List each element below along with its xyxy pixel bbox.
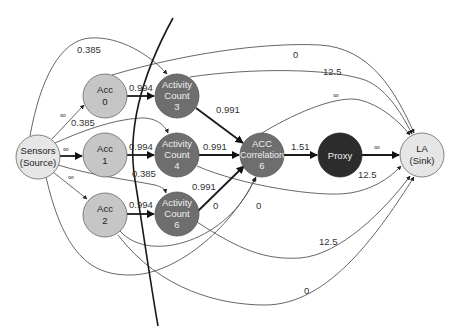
node-proxy: Proxy	[318, 133, 362, 177]
node-acc1-line2: 1	[102, 155, 107, 166]
label-src-acc2: ∞	[68, 173, 74, 182]
label-acc2-ac6: 0.994	[129, 199, 153, 210]
node-proxy-line1: Proxy	[328, 150, 353, 161]
node-acc2: Acc 2	[83, 193, 127, 237]
label-ac6-corr: 0.991	[192, 181, 216, 192]
label-acc1-ac4: 0.994	[129, 141, 153, 152]
node-sink-line2: (Sink)	[410, 155, 435, 166]
node-activity-count-6: Activity Count 6	[155, 192, 199, 236]
node-corr-line2: Correlation	[240, 150, 284, 160]
node-ac4-line2: Count	[164, 149, 190, 160]
node-ac6-line1: Activity	[162, 197, 192, 208]
label-src-ac6: 0.385	[132, 168, 156, 179]
node-acc0: Acc 0	[83, 74, 127, 118]
node-ac3-line1: Activity	[162, 79, 192, 90]
node-acc2-line2: 2	[102, 215, 107, 226]
label-ac3-sink: 12.5	[323, 66, 342, 77]
label-proxy-sink: ∞	[374, 143, 380, 152]
edge-corr-sink	[262, 99, 410, 135]
label-acc2-sink: 0	[304, 285, 309, 296]
node-acc0-line1: Acc	[97, 84, 113, 95]
label-ac4-sink: 12.5	[358, 169, 377, 180]
edge-ac3-sink	[190, 71, 412, 134]
node-corr-line3: 6	[259, 160, 264, 171]
edge-ac6-sink	[197, 176, 410, 258]
node-acc0-line2: 0	[102, 96, 107, 107]
node-acc2-line1: Acc	[97, 203, 113, 214]
node-ac3-line2: Count	[164, 90, 190, 101]
label-src-acc0: ∞	[60, 111, 66, 120]
edges-thin	[30, 38, 414, 305]
node-ac6-line3: 6	[174, 219, 179, 230]
label-acc0-sink: 0	[293, 49, 298, 60]
node-source: Sensors (Source)	[16, 135, 60, 179]
node-source-line1: Sensors	[21, 145, 56, 156]
node-ac3-line3: 3	[174, 101, 179, 112]
label-acc2-corr: 0	[213, 200, 218, 211]
label-src-acc1: ∞	[63, 145, 69, 154]
node-activity-count-4: Activity Count 4	[155, 133, 199, 177]
label-ac6-sink: 12.5	[319, 236, 338, 247]
node-acc1-line1: Acc	[97, 143, 113, 154]
node-sink-line1: LA	[416, 143, 428, 154]
label-acc0-ac3: 0.994	[129, 82, 153, 93]
label-src-ac4: 0.385	[71, 117, 95, 128]
node-acc1: Acc 1	[83, 133, 127, 177]
label-ac4-corr: 0.991	[203, 141, 227, 152]
label-corr-sink: ∞	[333, 91, 339, 100]
node-corr-line1: ACC	[252, 138, 272, 149]
node-sink: LA (Sink)	[400, 133, 444, 177]
node-ac6-line2: Count	[164, 208, 190, 219]
node-ac4-line3: 4	[174, 160, 179, 171]
flow-network-diagram: 0.385 ∞ 0.385 ∞ ∞ 0.385 0.994 0.994 0.99…	[0, 0, 456, 333]
node-activity-count-3: Activity Count 3	[155, 74, 199, 118]
node-source-line2: (Source)	[20, 157, 56, 168]
label-corr-proxy: 1.51	[291, 141, 310, 152]
label-src-corr: 0	[256, 200, 261, 211]
node-acc-correlation-6: ACC Correlation 6	[240, 133, 284, 177]
label-src-ac3: 0.385	[77, 44, 101, 55]
node-ac4-line1: Activity	[162, 138, 192, 149]
label-ac3-corr: 0.991	[216, 104, 240, 115]
